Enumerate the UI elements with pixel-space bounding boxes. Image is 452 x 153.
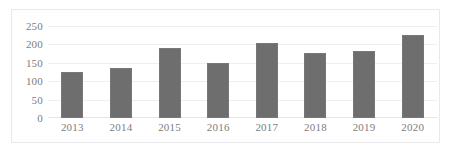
bar[interactable] — [256, 43, 278, 118]
bar-slot — [388, 26, 437, 118]
bar[interactable] — [207, 63, 229, 118]
bar-slot — [243, 26, 292, 118]
x-axis-tick-label: 2020 — [388, 122, 437, 133]
bar[interactable] — [353, 51, 375, 118]
x-axis-tick-labels: 20132014201520162017201820192020 — [48, 122, 437, 133]
x-axis-tick-label: 2017 — [243, 122, 292, 133]
x-axis-tick-label: 2019 — [340, 122, 389, 133]
x-axis-tick-label: 2013 — [48, 122, 97, 133]
y-axis-tick-label: 100 — [26, 76, 43, 87]
plot-area — [48, 26, 437, 118]
bar-slot — [291, 26, 340, 118]
bar-slot — [340, 26, 389, 118]
bar[interactable] — [159, 48, 181, 118]
x-axis-tick-label: 2016 — [194, 122, 243, 133]
y-axis-tick-label: 0 — [37, 113, 43, 124]
bar-slot — [145, 26, 194, 118]
bar-slot — [97, 26, 146, 118]
bar-series — [48, 26, 437, 118]
bar[interactable] — [402, 35, 424, 118]
y-axis-tick-label: 50 — [32, 94, 43, 105]
bar[interactable] — [61, 72, 83, 118]
chart-frame: 250 200 150 100 50 0 2013201420152016201… — [11, 9, 440, 143]
y-axis-tick-label: 250 — [26, 21, 43, 32]
bar-slot — [48, 26, 97, 118]
chart-screenshot: 250 200 150 100 50 0 2013201420152016201… — [0, 0, 452, 153]
x-axis-tick-label: 2015 — [145, 122, 194, 133]
bar[interactable] — [110, 68, 132, 118]
y-axis-tick-label: 150 — [26, 57, 43, 68]
y-axis-tick-labels: 250 200 150 100 50 0 — [12, 10, 48, 142]
x-axis-tick-label: 2014 — [97, 122, 146, 133]
bar[interactable] — [304, 53, 326, 119]
x-axis-tick-label: 2018 — [291, 122, 340, 133]
bar-slot — [194, 26, 243, 118]
y-axis-tick-label: 200 — [26, 39, 43, 50]
